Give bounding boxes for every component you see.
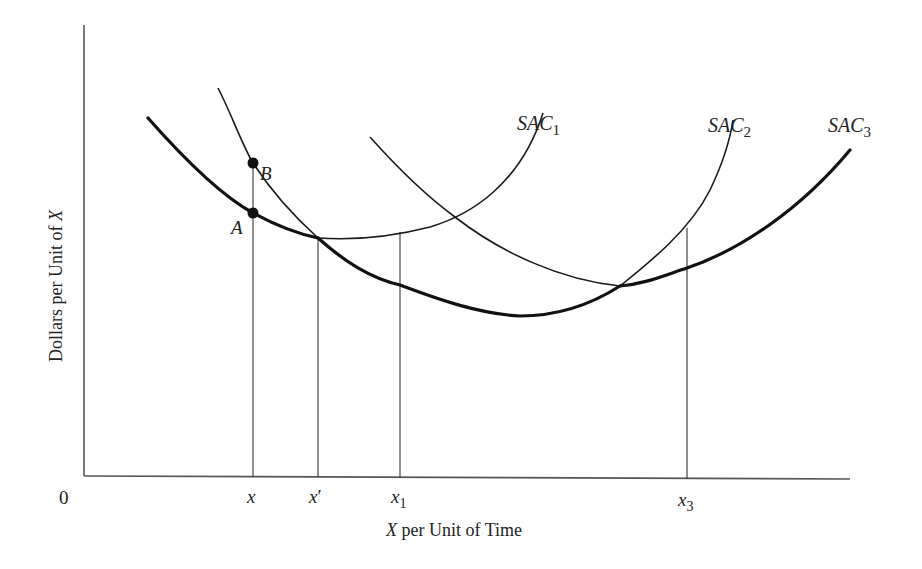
x-axis-title: X per Unit of Time	[385, 520, 522, 540]
x-tick-x3: x3	[677, 489, 693, 514]
x-axis	[84, 476, 850, 479]
sac1-curve	[318, 113, 543, 239]
x-tick-x-prime: x′	[308, 486, 322, 507]
sac2-right-segment	[620, 120, 733, 286]
point-a-label: A	[229, 217, 243, 238]
sac3-left-segment	[370, 137, 620, 286]
drop-lines	[253, 163, 687, 479]
sac-diagram: B A SAC1 SAC2 SAC3 0 x x′ x1 x3 X per Un…	[0, 0, 922, 569]
sac3-label: SAC3	[828, 114, 871, 140]
point-a-marker	[248, 208, 259, 219]
sac1-label: SAC1	[517, 112, 560, 138]
point-b-marker	[248, 158, 259, 169]
y-axis-title: Dollars per Unit of X	[46, 209, 66, 362]
origin-label: 0	[59, 487, 69, 508]
x-tick-x: x	[246, 486, 256, 507]
x-tick-x1: x1	[390, 486, 406, 511]
axes	[84, 25, 850, 479]
point-b-label: B	[260, 163, 272, 184]
sac3-envelope-segment	[620, 150, 850, 286]
